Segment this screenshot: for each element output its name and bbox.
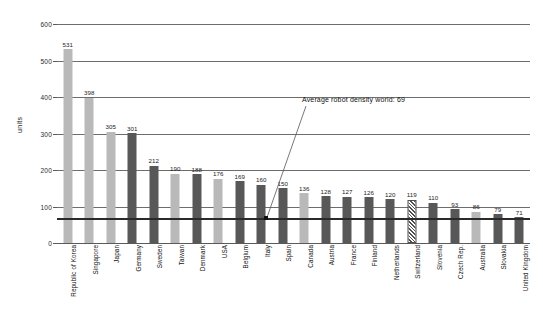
category-label-slot: Belgium (229, 245, 251, 307)
y-tick-label-0: 0 (48, 240, 52, 247)
category-label: Slovenia (436, 245, 443, 270)
y-tick-label-300: 300 (41, 130, 52, 137)
category-label-slot: Japan (100, 245, 122, 307)
gridline-0 (57, 243, 530, 244)
category-label-slot: Singapore (79, 245, 101, 307)
category-label-slot: USA (208, 245, 230, 307)
category-label-slot: Switzerland (401, 245, 423, 307)
category-label: Slovakia (500, 245, 507, 270)
category-label-slot: Austria (315, 245, 337, 307)
category-label: Austria (328, 245, 335, 265)
category-label: Singapore (92, 245, 99, 275)
category-label: France (350, 245, 357, 265)
category-label-slot: Czech Rep. (444, 245, 466, 307)
category-label: USA (221, 245, 228, 258)
category-label-slot: Denmark (186, 245, 208, 307)
category-label: Italy (264, 245, 271, 257)
category-label: Japan (113, 245, 120, 263)
y-tick-mark-0 (53, 243, 57, 244)
category-label: Denmark (199, 245, 206, 271)
category-label-slot: Slovenia (423, 245, 445, 307)
category-label: Finland (371, 245, 378, 266)
category-label: Switzerland (414, 245, 421, 279)
category-label: Belgium (242, 245, 249, 268)
category-label-slot: Australia (466, 245, 488, 307)
category-label-slot: Germany (122, 245, 144, 307)
category-label: Germany (135, 245, 142, 272)
robot-density-bar-chart: units 0100200300400500600 53139830530121… (0, 0, 543, 309)
category-label: Czech Rep. (457, 245, 464, 279)
category-label-slot: Canada (294, 245, 316, 307)
category-label: Republic of Korea (70, 245, 77, 297)
y-tick-label-600: 600 (41, 21, 52, 28)
y-axis-title: units (16, 117, 23, 133)
category-label-slot: Italy (251, 245, 273, 307)
x-axis-category-labels: Republic of KoreaSingaporeJapanGermanySw… (57, 245, 530, 307)
plot-area: 0100200300400500600 53139830530121219018… (57, 24, 530, 243)
category-label: Sweden (156, 245, 163, 268)
category-label: United Kingdom (522, 245, 529, 291)
y-tick-label-200: 200 (41, 167, 52, 174)
annotation-leader-line (57, 24, 530, 243)
category-label: Spain (285, 245, 292, 262)
category-label-slot: United Kingdom (509, 245, 531, 307)
category-label-slot: Sweden (143, 245, 165, 307)
category-label-slot: Republic of Korea (57, 245, 79, 307)
category-label: Taiwan (178, 245, 185, 265)
category-label: Netherlands (393, 245, 400, 280)
category-label-slot: Taiwan (165, 245, 187, 307)
category-label: Canada (307, 245, 314, 268)
y-tick-label-500: 500 (41, 57, 52, 64)
y-tick-label-100: 100 (41, 203, 52, 210)
category-label: Australia (479, 245, 486, 270)
y-tick-label-400: 400 (41, 94, 52, 101)
category-label-slot: France (337, 245, 359, 307)
category-label-slot: Slovakia (487, 245, 509, 307)
category-label-slot: Netherlands (380, 245, 402, 307)
category-label-slot: Spain (272, 245, 294, 307)
category-label-slot: Finland (358, 245, 380, 307)
